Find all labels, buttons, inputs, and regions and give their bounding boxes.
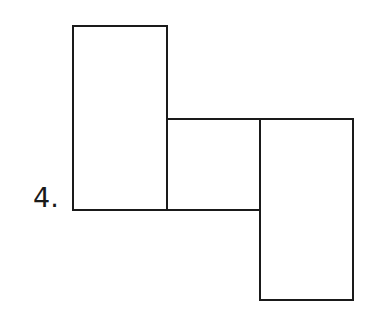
- rectangle-net-diagram: [0, 0, 377, 318]
- right-tall-rectangle: [260, 119, 353, 300]
- middle-square: [167, 119, 260, 210]
- left-tall-rectangle: [73, 26, 167, 210]
